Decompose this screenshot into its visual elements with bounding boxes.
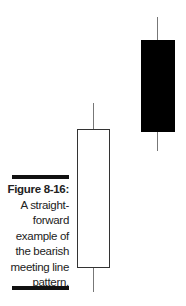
caption-line: example of bbox=[4, 229, 69, 245]
white-candle-upper-wick bbox=[93, 103, 94, 129]
black-candle-body bbox=[141, 40, 175, 132]
black-candle-lower-wick bbox=[157, 132, 158, 151]
figure-label: Figure 8-16: bbox=[4, 182, 69, 198]
caption-top-rule bbox=[12, 175, 69, 179]
caption-line: forward bbox=[4, 213, 69, 229]
caption-line: meeting line bbox=[4, 260, 69, 276]
caption-bottom-rule bbox=[12, 286, 69, 290]
black-candle-upper-wick bbox=[157, 17, 158, 41]
caption-line: the bearish bbox=[4, 244, 69, 260]
white-candle-body bbox=[77, 129, 110, 268]
white-candle-lower-wick bbox=[93, 268, 94, 292]
caption-line: A straight- bbox=[4, 198, 69, 214]
figure-caption: Figure 8-16: A straight- forward example… bbox=[4, 182, 69, 291]
